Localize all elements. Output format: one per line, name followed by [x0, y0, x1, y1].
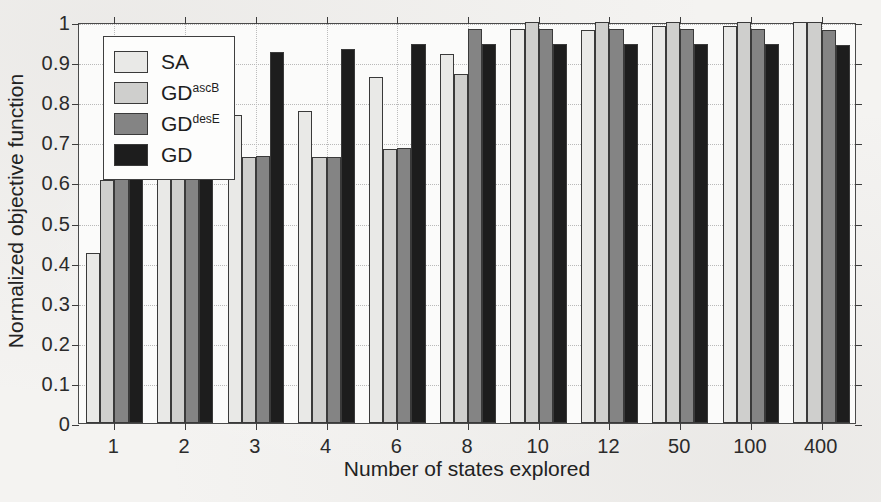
bar-GD-ascB-8 — [454, 74, 468, 423]
y-axis-tick-right — [855, 225, 862, 226]
x-axis-title: Number of states explored — [78, 457, 856, 481]
x-axis-tick — [822, 423, 823, 430]
bar-SA-400 — [793, 22, 807, 423]
bar-GD-desE-12 — [609, 29, 623, 423]
x-axis-tick-label: 100 — [733, 435, 766, 458]
bar-GD-50 — [694, 44, 708, 423]
bar-GD-desE-3 — [256, 156, 270, 423]
bar-GD-4 — [341, 49, 355, 423]
bar-SA-1 — [86, 253, 100, 423]
y-axis-tick-right — [855, 385, 862, 386]
y-axis-tick-right — [855, 345, 862, 346]
legend-swatch-GD — [114, 144, 148, 166]
bar-GD-12 — [624, 44, 638, 423]
x-axis-tick-top — [185, 17, 186, 24]
y-axis-tick-right — [855, 24, 862, 25]
chart-legend: SAGDascBGDdesEGD — [103, 36, 235, 180]
bar-GD-desE-6 — [397, 148, 411, 423]
x-axis-tick-top — [468, 17, 469, 24]
bar-GD-desE-2 — [185, 158, 199, 423]
y-axis-tick-label: 0.3 — [42, 292, 70, 315]
y-axis-tick-right — [855, 305, 862, 306]
x-axis-tick-label: 12 — [597, 435, 619, 458]
bar-GD-desE-400 — [822, 30, 836, 423]
y-axis-tick — [72, 425, 79, 426]
x-axis-tick — [397, 423, 398, 430]
y-axis-tick-right — [855, 425, 862, 426]
y-axis-tick — [72, 305, 79, 306]
bar-GD-400 — [836, 45, 850, 423]
y-axis-tick — [72, 144, 79, 145]
legend-label-SA: SA — [161, 51, 189, 72]
bar-SA-6 — [369, 77, 383, 423]
bar-GD-ascB-6 — [383, 149, 397, 423]
bar-GD-ascB-3 — [242, 157, 256, 423]
y-axis-tick — [72, 104, 79, 105]
x-axis-tick — [256, 423, 257, 430]
bar-GD-100 — [765, 44, 779, 423]
bar-GD-8 — [482, 44, 496, 423]
y-axis-tick — [72, 385, 79, 386]
x-axis-tick-top — [609, 17, 610, 24]
x-axis-tick-label: 2 — [179, 435, 190, 458]
bar-GD-desE-1 — [114, 158, 128, 423]
bar-GD-ascB-100 — [737, 22, 751, 423]
legend-label-GD-ascB: GDascB — [161, 82, 219, 103]
y-axis-tick-label: 0 — [59, 413, 70, 436]
y-axis-tick-label: 0.8 — [42, 92, 70, 115]
y-axis-tick-right — [855, 64, 862, 65]
x-axis-tick-top — [751, 17, 752, 24]
x-axis-tick-label: 4 — [320, 435, 331, 458]
y-axis-tick-label: 0.4 — [42, 252, 70, 275]
bar-SA-50 — [652, 26, 666, 423]
legend-item-SA: SA — [114, 46, 220, 77]
bar-GD-10 — [553, 44, 567, 423]
bar-GD-ascB-2 — [171, 159, 185, 423]
x-axis-tick-label: 1 — [108, 435, 119, 458]
x-axis-tick-label: 3 — [249, 435, 260, 458]
x-axis-tick-label: 400 — [804, 435, 837, 458]
bar-GD-ascB-1 — [100, 180, 114, 423]
bar-GD-ascB-400 — [807, 22, 821, 423]
x-axis-tick-label: 6 — [391, 435, 402, 458]
bar-GD-ascB-12 — [595, 22, 609, 423]
legend-label-GD: GD — [161, 144, 193, 165]
x-axis-tick — [185, 423, 186, 430]
x-axis-tick — [539, 423, 540, 430]
legend-swatch-GD-ascB — [114, 82, 148, 104]
x-axis-tick-top — [822, 17, 823, 24]
x-axis-tick-top — [327, 17, 328, 24]
bar-GD-ascB-50 — [666, 22, 680, 423]
bar-GD-3 — [270, 52, 284, 423]
x-axis-tick — [468, 423, 469, 430]
x-axis-tick — [114, 423, 115, 430]
y-axis-tick-right — [855, 144, 862, 145]
x-axis-tick-top — [256, 17, 257, 24]
x-axis-tick — [609, 423, 610, 430]
y-axis-tick-label: 0.7 — [42, 132, 70, 155]
y-axis-title: Normalized objective function — [4, 74, 28, 348]
bar-SA-12 — [581, 30, 595, 423]
legend-item-GD-ascB: GDascB — [114, 77, 220, 108]
bar-GD-ascB-4 — [312, 157, 326, 423]
legend-label-GD-desE: GDdesE — [161, 113, 220, 134]
y-axis-tick-label: 0.6 — [42, 172, 70, 195]
y-axis-tick — [72, 225, 79, 226]
y-axis-tick-label: 0.5 — [42, 212, 70, 235]
bar-SA-10 — [510, 29, 524, 423]
bar-GD-desE-4 — [327, 157, 341, 423]
y-axis-tick — [72, 64, 79, 65]
bar-GD-desE-10 — [539, 29, 553, 423]
x-axis-tick-top — [539, 17, 540, 24]
bar-GD-desE-8 — [468, 29, 482, 423]
bar-GD-desE-50 — [680, 29, 694, 423]
y-axis-tick-label: 0.2 — [42, 332, 70, 355]
y-axis-tick-right — [855, 104, 862, 105]
x-axis-tick-top — [680, 17, 681, 24]
legend-swatch-GD-desE — [114, 113, 148, 135]
bar-SA-8 — [440, 54, 454, 423]
y-axis-tick-right — [855, 265, 862, 266]
bar-SA-100 — [723, 26, 737, 423]
bar-SA-4 — [298, 111, 312, 423]
x-axis-tick-top — [114, 17, 115, 24]
